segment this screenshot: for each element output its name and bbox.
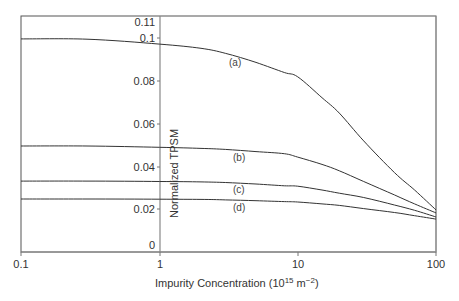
y-tick-label: 0.08 [134,75,155,87]
curve-d [21,199,436,219]
x-tick-label: 100 [427,258,445,270]
y-tick-label: 0.11 [134,16,155,28]
plot-frame [21,16,436,252]
y-tick-label: 0.04 [134,161,155,173]
y-tick-label: 0.06 [134,118,155,130]
curve-label-a: (a) [229,57,241,68]
y-tick-label: 0 [149,239,155,251]
x-tick-label: 1 [157,258,163,270]
x-ticks [21,252,436,256]
chart: 0.11 0.1 0.08 0.06 0.04 0.02 0 0.1 1 10 … [0,0,459,301]
x-tick-label: 10 [292,258,304,270]
x-axis-title: Impurity Concentration (1015 m−2) [155,276,319,289]
x-tick-label: 0.1 [13,258,28,270]
y-axis-title: Normalized TPSM [168,129,180,218]
curve-b [21,146,436,213]
curve-label-c: (c) [233,184,245,195]
curve-label-b: (b) [233,152,245,163]
y-tick-label: 0.02 [134,203,155,215]
y-tick-labels: 0.11 0.1 0.08 0.06 0.04 0.02 0 [134,16,155,251]
curve-label-d: (d) [233,202,245,213]
x-tick-labels: 0.1 1 10 100 [13,258,445,270]
